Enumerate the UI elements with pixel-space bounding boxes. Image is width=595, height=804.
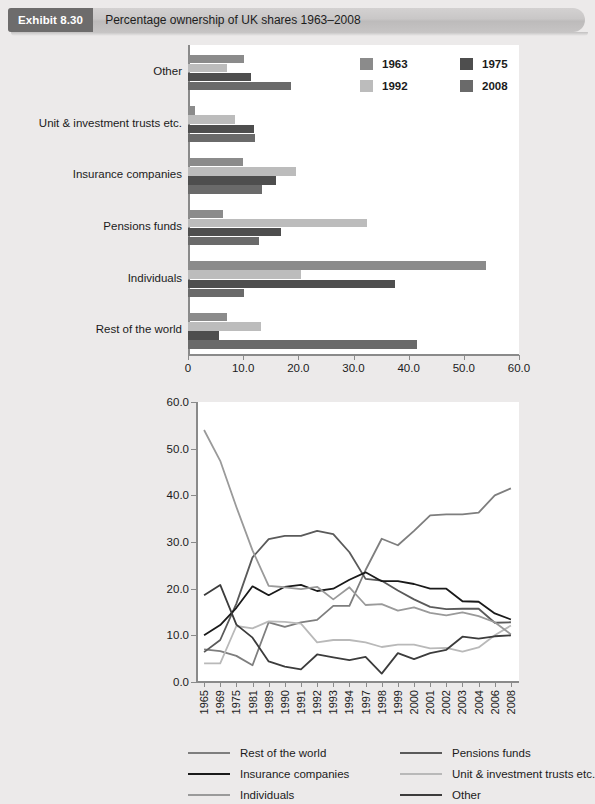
bar-category-label: Pensions funds (0, 220, 182, 232)
line-legend-swatch (400, 794, 442, 797)
bar-legend-swatch (460, 80, 473, 92)
bar-legend-item: 1992 (360, 80, 408, 92)
line-x-tick-label: 1981 (247, 690, 259, 714)
line-series-path (204, 531, 511, 652)
banner-shadow (11, 32, 588, 36)
line-x-tick-label: 1999 (392, 690, 404, 714)
line-x-tick (398, 682, 399, 687)
bar-segment (188, 176, 276, 185)
bar-segment (188, 125, 254, 134)
bar-category-label: Rest of the world (0, 323, 182, 335)
line-legend-label: Pensions funds (452, 747, 531, 759)
line-legend-item: Individuals (188, 789, 294, 801)
bar-x-tick (243, 355, 244, 360)
bar-x-tick (188, 355, 189, 360)
line-x-tick (495, 682, 496, 687)
line-legend-swatch (188, 794, 230, 797)
bar-legend-item: 1963 (360, 58, 408, 70)
line-y-tick-label: 50.0 (167, 443, 189, 455)
line-x-tick (253, 682, 254, 687)
bar-segment (188, 313, 227, 322)
line-chart: 0.010.020.030.040.050.060.0 196519691975… (0, 392, 593, 804)
bar-x-tick-label: 10.0 (232, 362, 254, 374)
bar-x-tick-label: 30.0 (342, 362, 364, 374)
line-legend-label: Rest of the world (240, 747, 326, 759)
line-legend-label: Insurance companies (240, 768, 349, 780)
line-y-axis (196, 402, 198, 682)
bar-segment (188, 158, 243, 167)
bar-x-tick-label: 0 (185, 362, 191, 374)
line-x-tick (204, 682, 205, 687)
line-legend-label: Individuals (240, 789, 294, 801)
line-y-tick (191, 542, 196, 543)
bar-x-tick (464, 355, 465, 360)
line-legend-item: Pensions funds (400, 747, 531, 759)
exhibit-number: Exhibit 8.30 (8, 8, 93, 32)
line-x-tick-label: 2008 (505, 690, 517, 714)
bar-segment (188, 106, 195, 115)
bar-segment (188, 340, 417, 349)
line-legend-item: Insurance companies (188, 768, 349, 780)
line-legend-label: Other (452, 789, 481, 801)
bar-category-label: Insurance companies (0, 168, 182, 180)
bar-x-tick (519, 355, 520, 360)
bar-legend-label: 2008 (482, 80, 508, 92)
bar-segment (188, 134, 255, 143)
bar-category-label: Individuals (0, 272, 182, 284)
line-y-tick-label: 20.0 (167, 583, 189, 595)
bar-category-label: Unit & investment trusts etc. (0, 117, 182, 129)
line-x-tick-label: 1992 (311, 690, 323, 714)
line-legend-swatch (188, 752, 230, 755)
line-x-tick (414, 682, 415, 687)
bar-x-tick-label: 60.0 (508, 362, 530, 374)
bar-segment (188, 237, 259, 246)
line-x-tick (462, 682, 463, 687)
line-x-tick-label: 1989 (263, 690, 275, 714)
line-y-tick-label: 60.0 (167, 396, 189, 408)
line-y-tick (191, 682, 196, 683)
line-x-tick (349, 682, 350, 687)
line-legend-item: Rest of the world (188, 747, 326, 759)
bar-legend-item: 1975 (460, 58, 508, 70)
bar-segment (188, 331, 219, 340)
line-x-tick-label: 2004 (473, 690, 485, 714)
bar-segment (188, 64, 227, 73)
line-legend-item: Other (400, 789, 481, 801)
line-y-tick (191, 449, 196, 450)
line-x-tick-label: 2000 (408, 690, 420, 714)
bar-segment (188, 322, 261, 331)
line-y-tick-label: 30.0 (167, 536, 189, 548)
line-plot-area (196, 402, 519, 682)
line-x-tick-label: 1969 (214, 690, 226, 714)
bar-legend-label: 1963 (382, 58, 408, 70)
bar-legend-swatch (460, 58, 473, 70)
bar-chart: 010.020.030.040.050.060.0 OtherUnit & in… (0, 40, 593, 380)
line-x-tick (301, 682, 302, 687)
line-x-tick (333, 682, 334, 687)
line-series-svg (196, 402, 519, 682)
bar-x-tick-label: 20.0 (287, 362, 309, 374)
line-x-tick-label: 2003 (456, 690, 468, 714)
bar-segment (188, 261, 486, 270)
bar-segment (188, 219, 367, 228)
line-x-tick (366, 682, 367, 687)
line-y-tick (191, 402, 196, 403)
line-x-tick-label: 1997 (360, 690, 372, 714)
line-legend-swatch (400, 752, 442, 755)
line-x-tick-label: 1975 (230, 690, 242, 714)
line-legend-item: Unit & investment trusts etc. (400, 768, 595, 780)
line-series-path (204, 572, 511, 635)
exhibit-banner: Exhibit 8.30 Percentage ownership of UK … (8, 8, 585, 32)
bar-legend-label: 1975 (482, 58, 508, 70)
line-x-tick-label: 1993 (327, 690, 339, 714)
bar-x-tick (298, 355, 299, 360)
bar-segment (188, 289, 244, 298)
line-x-tick (511, 682, 512, 687)
bar-segment (188, 115, 235, 124)
bar-x-tick-label: 40.0 (397, 362, 419, 374)
line-legend-swatch (400, 773, 442, 776)
line-x-tick-label: 2006 (489, 690, 501, 714)
line-x-tick (317, 682, 318, 687)
line-x-tick (236, 682, 237, 687)
line-y-tick-label: 40.0 (167, 489, 189, 501)
